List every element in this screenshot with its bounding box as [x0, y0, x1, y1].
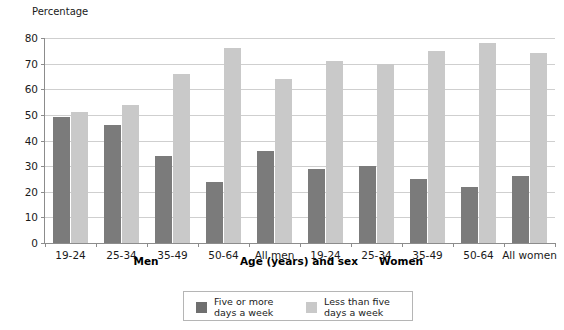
group-label-men: Men — [133, 255, 158, 267]
bar-less-than-five — [428, 51, 445, 243]
x-tick-mark — [351, 243, 352, 247]
x-tick-mark — [45, 243, 46, 247]
legend-item-five-or-more: Five or more days a week — [196, 296, 273, 318]
x-tick-label: 50-64 — [463, 249, 494, 261]
bar-group — [512, 38, 547, 243]
y-tick-label: 0 — [31, 237, 38, 249]
y-tick-label: 10 — [25, 211, 38, 223]
group-label-women: Women — [379, 255, 423, 267]
y-tick-label: 60 — [25, 83, 38, 95]
x-tick-label: 19-24 — [55, 249, 86, 261]
bar-less-than-five — [173, 74, 190, 243]
x-tick-label: All women — [502, 249, 557, 261]
bar-less-than-five — [377, 64, 394, 243]
bar-five-or-more — [155, 156, 172, 243]
bar-five-or-more — [308, 169, 325, 243]
legend-swatch-icon — [306, 302, 317, 313]
bar-less-than-five — [326, 61, 343, 243]
bar-group — [308, 38, 343, 243]
x-tick-mark — [300, 243, 301, 247]
bar-five-or-more — [359, 166, 376, 243]
y-tick-label: 40 — [25, 135, 38, 147]
bar-less-than-five — [122, 105, 139, 243]
bar-group — [461, 38, 496, 243]
y-tick-label: 30 — [25, 160, 38, 172]
x-tick-mark — [96, 243, 97, 247]
bar-group — [410, 38, 445, 243]
bar-five-or-more — [257, 151, 274, 243]
x-tick-mark — [249, 243, 250, 247]
bar-less-than-five — [224, 48, 241, 243]
bar-less-than-five — [530, 53, 547, 243]
bar-group — [206, 38, 241, 243]
x-tick-label: 25-34 — [106, 249, 137, 261]
x-tick-label: 35-49 — [157, 249, 188, 261]
bar-five-or-more — [410, 179, 427, 243]
legend-item-less-than-five: Less than five days a week — [306, 296, 390, 318]
bar-group — [257, 38, 292, 243]
bar-group — [53, 38, 88, 243]
legend-label: Less than five days a week — [324, 296, 390, 318]
bar-five-or-more — [104, 125, 121, 243]
bar-group — [104, 38, 139, 243]
bar-five-or-more — [206, 182, 223, 244]
bar-less-than-five — [71, 112, 88, 243]
legend-label: Five or more days a week — [214, 296, 273, 318]
y-tick-label: 50 — [25, 109, 38, 121]
bar-group — [359, 38, 394, 243]
bar-chart: Percentage 01020304050607080 19-2425-343… — [0, 0, 564, 330]
chart-legend: Five or more days a week Less than five … — [183, 291, 413, 321]
y-tick-label: 80 — [25, 32, 38, 44]
plot-area: 01020304050607080 19-2425-3435-4950-64Al… — [44, 38, 555, 244]
x-tick-mark — [147, 243, 148, 247]
legend-swatch-icon — [196, 302, 207, 313]
x-axis-title: Age (years) and sex — [240, 255, 358, 267]
bars-layer — [45, 38, 555, 243]
bar-five-or-more — [461, 187, 478, 243]
x-tick-mark — [198, 243, 199, 247]
x-tick-label: 50-64 — [208, 249, 239, 261]
x-tick-mark — [402, 243, 403, 247]
x-tick-mark — [453, 243, 454, 247]
bar-five-or-more — [53, 117, 70, 243]
y-tick-label: 70 — [25, 58, 38, 70]
bar-five-or-more — [512, 176, 529, 243]
bar-less-than-five — [479, 43, 496, 243]
y-axis-title: Percentage — [32, 6, 88, 17]
y-tick-label: 20 — [25, 186, 38, 198]
x-tick-mark — [555, 243, 556, 247]
bar-less-than-five — [275, 79, 292, 243]
bar-group — [155, 38, 190, 243]
x-tick-mark — [504, 243, 505, 247]
